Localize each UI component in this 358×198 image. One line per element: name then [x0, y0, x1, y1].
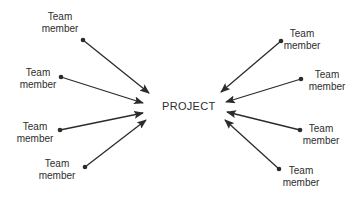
arrow: [225, 120, 279, 169]
arrow: [61, 77, 143, 103]
arrow: [221, 41, 281, 92]
label-line-2: member: [283, 177, 320, 189]
team-member-label: Teammember: [42, 11, 79, 34]
label-line-1: Team: [39, 158, 76, 170]
arrow: [227, 112, 300, 130]
label-line-1: Team: [17, 121, 54, 133]
node-dot-icon: [299, 77, 304, 82]
label-line-2: member: [309, 81, 346, 93]
node-dot-icon: [58, 128, 63, 133]
label-line-1: Team: [284, 28, 321, 40]
label-line-2: member: [20, 79, 57, 91]
label-line-2: member: [303, 135, 340, 147]
spoke-left-4: [83, 120, 146, 169]
spoke-right-2: [226, 77, 303, 102]
team-member-label: Teammember: [17, 121, 54, 144]
node-dot-icon: [59, 75, 64, 80]
project-label: PROJECT: [162, 100, 215, 112]
team-member-label: Teammember: [283, 165, 320, 188]
node-dot-icon: [81, 38, 86, 43]
spoke-right-3: [227, 112, 302, 132]
label-line-2: member: [39, 170, 76, 182]
label-line-1: Team: [283, 165, 320, 177]
arrow: [60, 113, 143, 130]
team-member-label: Teammember: [284, 28, 321, 51]
spoke-right-4: [225, 120, 281, 171]
label-line-1: Team: [20, 67, 57, 79]
arrow: [83, 40, 149, 93]
spoke-left-1: [81, 38, 149, 93]
label-line-2: member: [17, 133, 54, 145]
node-dot-icon: [83, 165, 88, 170]
label-line-1: Team: [303, 123, 340, 135]
spoke-left-3: [58, 113, 143, 132]
team-member-label: Teammember: [303, 123, 340, 146]
label-line-2: member: [284, 40, 321, 52]
team-member-label: Teammember: [309, 69, 346, 92]
spoke-left-2: [59, 75, 143, 103]
node-dot-icon: [277, 167, 282, 172]
label-line-1: Team: [309, 69, 346, 81]
label-line-1: Team: [42, 11, 79, 23]
node-dot-icon: [298, 128, 303, 133]
team-member-label: Teammember: [20, 67, 57, 90]
node-dot-icon: [279, 39, 284, 44]
label-line-2: member: [42, 23, 79, 35]
team-member-label: Teammember: [39, 158, 76, 181]
arrow: [85, 120, 146, 167]
spoke-right-1: [221, 39, 283, 92]
arrow: [226, 79, 301, 102]
